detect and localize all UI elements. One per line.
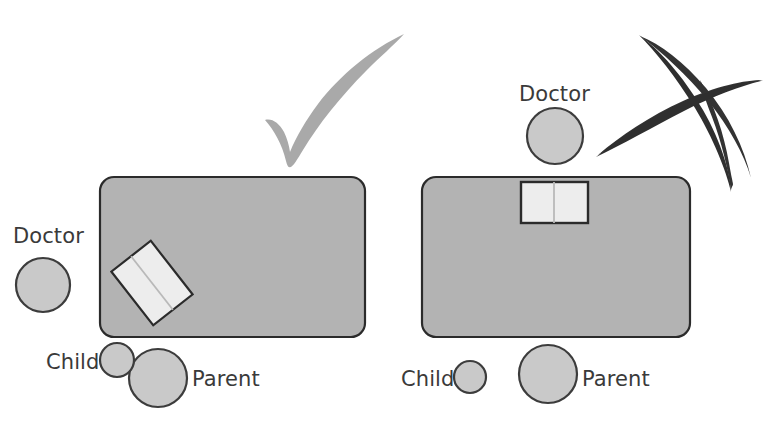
recommended-child-person [100,343,134,377]
not-recommended-open-book [521,182,588,223]
not-recommended-doctor-person [527,108,583,164]
not-recommended-parent-label: Parent [582,369,650,390]
recommended-doctor-person [16,258,70,312]
not-recommended-doctor-label: Doctor [519,84,590,105]
cross-mark-icon [598,36,763,190]
check-mark-icon [265,34,404,167]
not-recommended-parent-person [519,345,577,403]
recommended-child-label: Child [46,352,99,373]
recommended-doctor-label: Doctor [13,226,84,247]
recommended-parent-label: Parent [192,369,260,390]
seating-arrangement-figure: Doctor Child Parent Doctor Child Parent [0,0,763,439]
cross-mark-icon-strokes [596,35,761,192]
not-recommended-child-label: Child [401,369,454,390]
not-recommended-child-person [454,361,486,393]
recommended-parent-person [129,349,187,407]
